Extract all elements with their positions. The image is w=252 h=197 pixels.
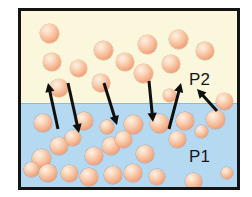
vapor-molecule [50, 79, 68, 97]
vapor-molecule [162, 55, 180, 73]
liquid-molecule [39, 164, 57, 182]
liquid-molecule [124, 164, 142, 182]
vapor-molecule [94, 41, 113, 60]
liquid-molecule [61, 165, 78, 182]
liquid-molecule [195, 125, 208, 138]
vapor-pressure-label: P2 [189, 71, 210, 88]
vapor-molecule [163, 89, 176, 102]
liquid-molecule [104, 166, 122, 184]
vapor-molecule [216, 93, 233, 110]
liquid-molecule [149, 169, 165, 185]
liquid-molecule [100, 120, 114, 134]
liquid-pressure-label: P1 [189, 148, 210, 165]
liquid-molecule [65, 130, 81, 146]
liquid-molecule [185, 173, 202, 190]
diagram-frame: P2 P1 [18, 8, 240, 190]
liquid-molecule [221, 167, 233, 179]
vapor-molecule [40, 24, 59, 43]
vapor-molecule [92, 74, 110, 92]
vapor-molecule [196, 42, 214, 60]
vapor-molecule [116, 53, 134, 71]
liquid-molecule [206, 110, 225, 129]
liquid-molecule [176, 112, 194, 130]
liquid-molecule [115, 131, 132, 148]
liquid-molecule [136, 145, 154, 163]
vapor-molecule [138, 35, 157, 54]
phase-interface-line [21, 103, 237, 104]
liquid-molecule [24, 162, 39, 177]
vapor-molecule [43, 53, 61, 71]
liquid-molecule [169, 131, 186, 148]
figure-canvas: P2 P1 [0, 0, 252, 197]
liquid-molecule [75, 112, 93, 130]
liquid-molecule [85, 147, 103, 165]
liquid-molecule [34, 114, 52, 132]
liquid-molecule [80, 168, 98, 186]
vapor-molecule [134, 64, 153, 83]
vapor-molecule [169, 30, 188, 49]
liquid-molecule [150, 114, 169, 133]
vapor-molecule [70, 60, 87, 77]
